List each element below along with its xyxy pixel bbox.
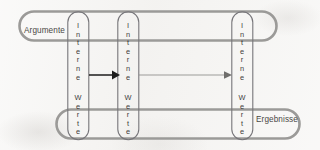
- letter: e: [68, 74, 88, 83]
- diagram-svg: [0, 0, 320, 150]
- arrow-2: [139, 71, 232, 78]
- letter: e: [232, 74, 252, 83]
- column-2-upper-text: I n t e r n e: [118, 22, 138, 82]
- column-3-upper-text: I n t e r n e: [232, 22, 252, 82]
- letter: e: [118, 74, 138, 83]
- diagram-canvas: Argumente Ergebnisse I n t e r n e W e r…: [0, 0, 320, 150]
- column-2-lower-text: W e r t e: [118, 94, 138, 137]
- column-1-upper-text: I n t e r n e: [68, 22, 88, 82]
- argumente-label: Argumente: [24, 26, 65, 35]
- ergebnisse-label: Ergebnisse: [256, 115, 298, 124]
- column-3-lower-text: W e r t e: [232, 94, 252, 137]
- letter: e: [118, 128, 138, 137]
- arrow-1: [89, 71, 120, 80]
- letter: e: [68, 128, 88, 137]
- column-1-lower-text: W e r t e: [68, 94, 88, 137]
- letter: e: [232, 128, 252, 137]
